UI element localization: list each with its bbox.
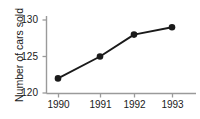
line-chart: Number of cars sold 130 125 120 1990 199… [0, 0, 200, 119]
x-tick-label-1990: 1990 [42, 99, 76, 110]
x-tick-label-1991: 1991 [84, 99, 118, 110]
x-tick-label-1993: 1993 [156, 99, 190, 110]
data-point-1991 [97, 53, 104, 60]
data-point-1990 [55, 75, 62, 82]
y-tick-label-125: 125 [12, 51, 38, 62]
data-point-1992 [131, 31, 138, 38]
x-tick-label-1992: 1992 [118, 99, 152, 110]
y-tick-label-130: 130 [12, 14, 38, 25]
y-tick-label-120: 120 [12, 87, 38, 98]
data-point-1993 [169, 24, 176, 31]
